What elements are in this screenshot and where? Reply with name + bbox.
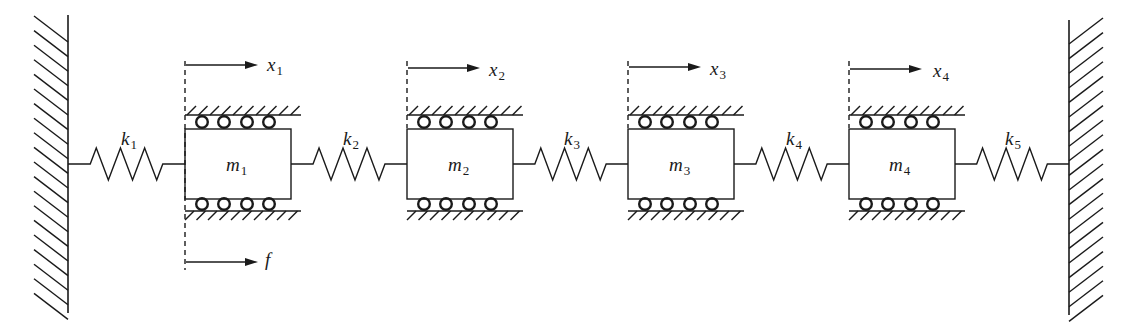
wall-hatch (34, 191, 68, 217)
rail-hatch (863, 106, 872, 115)
rail-hatch (222, 106, 231, 115)
rail-hatch (467, 106, 476, 115)
rail-hatch (697, 211, 706, 220)
wall-hatch (34, 279, 68, 305)
rail-hatch (884, 211, 893, 220)
rail-hatch (444, 106, 453, 115)
rail-hatch (918, 211, 927, 220)
rail-hatch (886, 106, 895, 115)
rail-hatch (453, 211, 462, 220)
spring-k3 (513, 148, 628, 180)
displacement-label-x1: x1 (267, 55, 283, 77)
wall-hatch (1069, 76, 1103, 102)
roller (905, 198, 917, 210)
displacement-arrow-x4-head (909, 65, 922, 73)
displacement-label-x4: x4 (933, 61, 949, 83)
wall-hatch (34, 250, 68, 276)
wall-hatch (1069, 62, 1103, 88)
rail-hatch (254, 211, 263, 220)
rail-hatch (430, 211, 439, 220)
displacement-arrow-x3-head (688, 63, 701, 71)
roller (463, 116, 475, 128)
wall-hatch (1069, 47, 1103, 73)
rail-hatch (421, 106, 430, 115)
rail-hatch (640, 211, 649, 220)
mass-label-m4: m4 (889, 155, 910, 177)
rail-hatch (874, 106, 883, 115)
rail-hatch (199, 106, 208, 115)
spring-label-k1: k1 (121, 129, 137, 151)
mass-label-m3: m3 (669, 155, 690, 177)
rail-hatch (187, 106, 196, 115)
roller (241, 198, 253, 210)
roller (882, 116, 894, 128)
roller (661, 116, 673, 128)
wall-hatch (34, 147, 68, 173)
rail-hatch (711, 106, 720, 115)
rail-hatch (233, 106, 242, 115)
wall-hatch (34, 16, 68, 42)
rail-hatch (941, 211, 950, 220)
rail-hatch (688, 106, 697, 115)
rail-hatch (732, 211, 741, 220)
spring-label-k3: k3 (564, 129, 580, 151)
rail-hatch (872, 211, 881, 220)
rail-hatch (256, 106, 265, 115)
roller (440, 116, 452, 128)
rail-hatch (909, 106, 918, 115)
rail-hatch (289, 211, 298, 220)
wall-hatch (34, 89, 68, 115)
rail-hatch (291, 106, 300, 115)
rail-hatch (722, 106, 731, 115)
rail-hatch (210, 106, 219, 115)
rail-hatch (501, 106, 510, 115)
displacement-arrow-x2-head (467, 64, 480, 72)
wall-hatch (1069, 149, 1103, 175)
rail-hatch (442, 211, 451, 220)
rail-hatch (932, 106, 941, 115)
rail-hatch (907, 211, 916, 220)
rail-hatch (897, 106, 906, 115)
rail-hatch (277, 211, 286, 220)
rail-hatch (432, 106, 441, 115)
wall-hatch (34, 264, 68, 290)
rail-hatch (630, 106, 639, 115)
displacement-arrow-x1-head (245, 61, 258, 69)
rail-hatch (674, 211, 683, 220)
wall-hatch (1069, 33, 1103, 59)
roller (196, 116, 208, 128)
rail-hatch (851, 106, 860, 115)
spring-k2 (291, 148, 407, 180)
wall-hatch (34, 104, 68, 130)
rail-hatch (895, 211, 904, 220)
wall-hatch (1069, 222, 1103, 248)
wall-hatch (1069, 237, 1103, 263)
wall-hatch (1069, 193, 1103, 219)
rail-hatch (734, 106, 743, 115)
spring-label-k2: k2 (343, 129, 359, 151)
wall-hatch (1069, 106, 1103, 132)
roller (218, 116, 230, 128)
mass-label-m2: m2 (448, 155, 469, 177)
wall-hatch (1069, 91, 1103, 117)
rail-hatch (663, 211, 672, 220)
roller (241, 116, 253, 128)
rail-hatch (943, 106, 952, 115)
rail-hatch (419, 211, 428, 220)
wall-hatch (1069, 281, 1103, 307)
wall-hatch (1069, 208, 1103, 234)
rail-hatch (488, 211, 497, 220)
rail-hatch (930, 211, 939, 220)
wall-hatch (34, 45, 68, 71)
rail-hatch (407, 211, 416, 220)
spring-k1 (68, 148, 185, 180)
roller (905, 116, 917, 128)
spring-k5 (955, 148, 1069, 180)
roller (196, 198, 208, 210)
rail-hatch (651, 211, 660, 220)
roller (639, 198, 651, 210)
force-arrow-f-head (245, 258, 258, 266)
rail-hatch (676, 106, 685, 115)
displacement-label-x3: x3 (710, 59, 726, 81)
rail-hatch (476, 211, 485, 220)
